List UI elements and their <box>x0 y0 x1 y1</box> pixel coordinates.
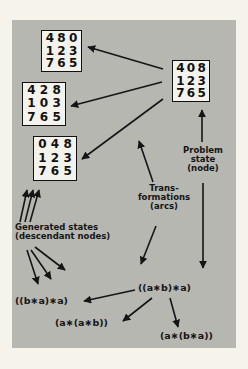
generated-states-label: Generated states (descendant nodes) <box>15 223 110 241</box>
problem-state-label: Problem state (node) <box>181 146 225 173</box>
arc-to-state-1 <box>88 47 163 69</box>
arrows-layer <box>0 0 248 369</box>
expression-child-3: (a∗(b∗a)) <box>160 330 213 341</box>
expression-root: ((a∗b)∗a) <box>138 282 191 293</box>
expression-child-2: (a∗(a∗b)) <box>55 317 108 328</box>
arc-to-state-2 <box>71 82 162 106</box>
pointer-arc-down <box>141 226 156 264</box>
arc-expr-2 <box>123 298 152 321</box>
label-line: (descendant nodes) <box>15 232 110 241</box>
arc-to-state-3 <box>82 99 163 159</box>
pointer-gen-down-1 <box>27 250 38 284</box>
pointer-gen-down-2 <box>31 250 51 279</box>
pointer-arc-up <box>139 141 153 182</box>
transformations-label: Trans- formations (arcs) <box>135 184 193 211</box>
arc-expr-1 <box>84 290 135 301</box>
label-line: (arcs) <box>135 202 193 211</box>
expression-child-1: ((b∗a)∗a) <box>15 295 68 306</box>
pointer-gen-down-3 <box>35 247 65 270</box>
arc-expr-3 <box>170 298 178 327</box>
label-line: (node) <box>181 164 225 173</box>
